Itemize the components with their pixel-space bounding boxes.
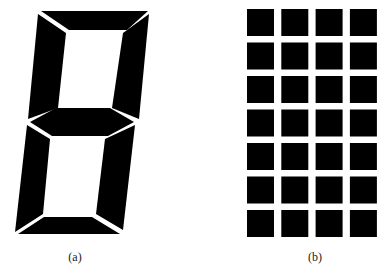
- dot: [350, 9, 377, 36]
- dot: [316, 110, 343, 137]
- seven-segment-display: [15, 11, 149, 234]
- dot: [316, 76, 343, 103]
- dot: [281, 76, 308, 103]
- dot: [316, 210, 343, 237]
- segment-lower-right: [96, 125, 135, 230]
- dot: [247, 43, 274, 70]
- panel-label-b: (b): [308, 250, 322, 265]
- dot: [350, 143, 377, 170]
- dot: [350, 110, 377, 137]
- dot: [247, 110, 274, 137]
- dot-matrix-display: [247, 9, 377, 237]
- dot: [350, 177, 377, 204]
- dot: [247, 76, 274, 103]
- dot: [350, 76, 377, 103]
- dot: [350, 210, 377, 237]
- segment-lower-left: [15, 125, 50, 232]
- panel-label-a: (a): [68, 250, 81, 265]
- dot: [281, 43, 308, 70]
- dot: [281, 110, 308, 137]
- dot: [281, 177, 308, 204]
- dot: [316, 143, 343, 170]
- dot: [247, 177, 274, 204]
- segment-upper-left: [28, 14, 66, 119]
- dot: [350, 43, 377, 70]
- dot: [247, 9, 274, 36]
- figure-canvas: [0, 0, 390, 271]
- dot: [316, 9, 343, 36]
- dot: [281, 143, 308, 170]
- dot: [247, 143, 274, 170]
- dot: [316, 177, 343, 204]
- dot: [316, 43, 343, 70]
- dot: [281, 210, 308, 237]
- dot: [281, 9, 308, 36]
- dot: [247, 210, 274, 237]
